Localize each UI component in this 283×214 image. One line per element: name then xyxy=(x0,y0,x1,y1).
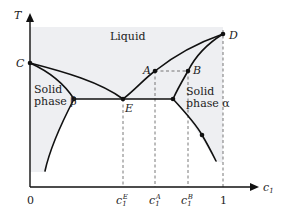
x-tick-1: 1 xyxy=(220,195,227,206)
point-A xyxy=(153,69,158,74)
x-tick-cE: c1E xyxy=(116,195,128,208)
y-axis-arrow-icon xyxy=(26,13,34,22)
label-A: A xyxy=(143,65,151,76)
point-B xyxy=(186,69,191,74)
label-E: E xyxy=(125,103,133,114)
x-tick-cB: c1B xyxy=(181,195,193,208)
x-tick-cA-sub: 1 xyxy=(155,200,159,208)
point-E xyxy=(121,97,126,102)
region-solid-alpha-line2: phase α xyxy=(186,98,230,110)
point-D xyxy=(221,32,226,37)
y-axis-label: T xyxy=(14,10,21,21)
point-C xyxy=(28,61,33,66)
region-liquid: Liquid xyxy=(110,31,146,43)
label-D: D xyxy=(229,30,238,41)
x-axis-label: c1 xyxy=(263,182,274,195)
x-tick-cE-sub: 1 xyxy=(122,200,126,208)
point-alpha-solvus xyxy=(200,133,205,138)
x-tick-cA-sup: A xyxy=(156,193,161,201)
region-solid-alpha: Solid phase α xyxy=(186,86,230,110)
x-axis-label-sub: 1 xyxy=(269,187,273,195)
x-tick-0: 0 xyxy=(27,195,34,206)
label-B: B xyxy=(193,65,201,76)
region-solid-beta: Solid phase β xyxy=(34,84,77,108)
x-axis-arrow-icon xyxy=(250,183,259,191)
point-alpha-junction xyxy=(171,97,176,102)
region-solid-beta-line2: phase β xyxy=(34,96,77,108)
x-tick-cA: c1A xyxy=(149,195,161,208)
x-tick-cE-sup: E xyxy=(123,193,128,201)
x-tick-cB-sup: B xyxy=(188,193,193,201)
x-tick-cB-sub: 1 xyxy=(187,200,191,208)
label-C: C xyxy=(16,58,24,69)
